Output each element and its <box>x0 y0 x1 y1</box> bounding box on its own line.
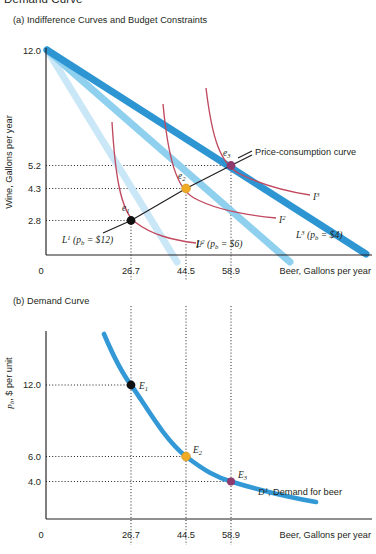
panel-a-x-axis-title: Beer, Gallons per year <box>280 266 371 276</box>
economics-figure: Demand Curve (a) Indifference Curves and… <box>0 0 376 554</box>
panel-a-ytick-2: 4.3 <box>28 184 41 194</box>
budget-line-L1 <box>47 50 177 262</box>
label-I2: I2 <box>278 214 286 225</box>
panel-a-y-axis-title: Wine, Gallons per year <box>4 115 14 208</box>
indifference-curve-I3 <box>206 88 310 195</box>
label-E1: E1 <box>138 381 148 392</box>
panel-b-xtick-2: 44.5 <box>177 530 195 540</box>
point-E3 <box>227 478 235 486</box>
point-e2 <box>182 184 191 193</box>
panel-b-xtick-0: 0 <box>38 530 43 540</box>
point-E1 <box>127 381 136 390</box>
label-budget-L1: L1 (pb = $12) <box>61 234 113 247</box>
label-budget-L2: L2 (pb = $6) <box>195 238 242 251</box>
budget-line-L2 <box>47 50 290 262</box>
panel-a-xtick-0: 0 <box>38 266 43 276</box>
figure-title-clipped: Demand Curve <box>4 0 83 5</box>
panel-a-xtick-3: 58.9 <box>222 266 240 276</box>
panel-a-ytick-1: 5.2 <box>28 161 41 171</box>
label-budget-L3: L3 (pb = $4) <box>295 229 342 242</box>
panel-b-plot: pb, $ per unit 12.0 6.0 4.0 E1 E2 E3 <box>0 305 376 554</box>
panel-b-xtick-3: 58.9 <box>222 530 240 540</box>
label-E3: E3 <box>237 470 248 481</box>
panel-a-xtick-2: 44.5 <box>177 266 195 276</box>
demand-curve-D1 <box>104 334 316 502</box>
panel-b-ytick-0: 12.0 <box>23 380 41 390</box>
panel-b-ytick-2: 4.0 <box>28 477 41 487</box>
point-e1 <box>127 216 136 225</box>
panel-b-xtick-1: 26.7 <box>122 530 140 540</box>
label-e3: e3 <box>223 148 231 159</box>
label-I3: I3 <box>312 191 320 202</box>
label-demand-curve: D1, Demand for beer <box>257 486 342 497</box>
panel-a-plot: Wine, Gallons per year 12.0 5.2 4.3 2.8 <box>0 22 376 287</box>
price-consumption-curve-label: Price-consumption curve <box>255 147 356 157</box>
panel-a-xtick-1: 26.7 <box>122 266 140 276</box>
label-e1: e1 <box>122 203 129 214</box>
label-E2: E2 <box>192 445 203 456</box>
point-e3 <box>227 161 236 170</box>
panel-a-ytick-3: 2.8 <box>28 216 41 226</box>
panel-b-ytick-1: 6.0 <box>28 452 41 462</box>
panel-b-x-axis-title: Beer, Gallons per year <box>280 530 371 540</box>
panel-a-ytick-0: 12.0 <box>23 46 41 56</box>
pcc-leader-line <box>238 151 252 158</box>
point-E2 <box>182 452 191 461</box>
panel-b-y-axis-title: pb, $ per unit <box>4 357 15 410</box>
